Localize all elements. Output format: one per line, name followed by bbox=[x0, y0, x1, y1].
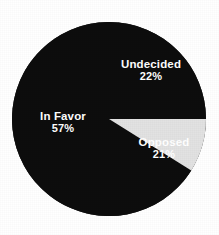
slice-label-undecided: Undecided 22% bbox=[110, 58, 192, 83]
pie-chart-figure: Undecided 22% In Favor 57% Opposed 21% bbox=[0, 0, 219, 235]
slice-label-in-favor: In Favor 57% bbox=[27, 110, 99, 135]
slice-name-in-favor: In Favor bbox=[27, 110, 99, 122]
slice-name-opposed: Opposed bbox=[128, 136, 200, 148]
slice-value-in-favor: 57% bbox=[27, 123, 99, 135]
slice-name-undecided: Undecided bbox=[110, 58, 192, 70]
slice-label-opposed: Opposed 21% bbox=[128, 136, 200, 161]
slice-value-opposed: 21% bbox=[128, 149, 200, 161]
slice-value-undecided: 22% bbox=[110, 71, 192, 83]
